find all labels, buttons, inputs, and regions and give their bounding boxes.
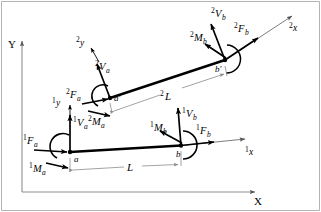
config-1-local-x-label: x <box>248 147 254 157</box>
global-y-axis-label: Y <box>8 38 16 50</box>
moment-a-2-sub: a <box>101 121 105 130</box>
config-2-local-y-label: y <box>79 38 85 48</box>
length-1-dimension: L <box>70 151 181 173</box>
moment-a-1-arrow <box>46 163 68 168</box>
config-1-local-y-label: y <box>55 98 61 108</box>
force-a-2-sub: a <box>77 94 81 103</box>
force-b-1-label: F <box>199 125 207 136</box>
moment-b-2-arc <box>226 45 241 73</box>
node-b-prime-label: b' <box>215 64 223 74</box>
shear-b-1-arrow <box>178 108 181 146</box>
length-1-label: L <box>126 161 133 173</box>
node-a-prime-label: a' <box>114 93 122 103</box>
force-b-1-sub: b <box>207 130 211 139</box>
shear-b-2-sub: b <box>222 13 226 22</box>
force-a-2-label: F <box>69 89 77 100</box>
global-axes: Y X <box>8 38 262 207</box>
moment-b-2-arrow <box>205 44 226 58</box>
node-b-label: b <box>176 149 181 159</box>
force-a-1-label: F <box>26 135 34 146</box>
shear-b-1-sub: b <box>193 113 197 122</box>
moment-b-1-sub: b <box>163 127 167 136</box>
config-1-group: a b 1 x 1 y 1 V a 1 F a 1 M a 1 V b 1 M <box>23 96 254 177</box>
force-b-2-sub: b <box>245 28 249 37</box>
diagram-svg: Y X a b 1 x 1 y 1 V a 1 F a 1 M a <box>0 0 321 212</box>
force-b-2-arrow <box>225 38 258 60</box>
moment-a-1-sub: a <box>42 168 46 177</box>
moment-a-1-arc <box>50 134 69 158</box>
global-x-axis-label: X <box>254 195 262 207</box>
force-a-1-sub: a <box>34 140 38 149</box>
figure-border <box>2 2 320 211</box>
shear-a-2-sub: a <box>106 66 110 75</box>
figure-canvas: Y X a b 1 x 1 y 1 V a 1 F a 1 M a <box>0 0 321 212</box>
shear-b-2-arrow <box>211 24 225 60</box>
moment-b-2-sub: b <box>203 37 207 46</box>
shear-a-1-sub: a <box>84 122 88 131</box>
length-2-sup: 2 <box>160 89 164 98</box>
node-a-label: a <box>74 154 79 164</box>
beam-1-member <box>70 146 181 153</box>
force-b-2-label: F <box>237 23 245 34</box>
length-2-dimension: 2 L <box>110 66 227 113</box>
config-2-local-x-label: x <box>292 23 298 33</box>
length-2-label: L <box>164 90 171 102</box>
